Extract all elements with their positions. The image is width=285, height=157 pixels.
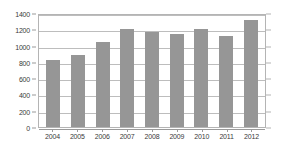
x-tick-mark-2008 [152,129,153,132]
bar-2006 [96,42,110,127]
y-tick-label-1000: 1000 [15,43,30,50]
x-tick-label-2010: 2010 [194,133,209,141]
x-axis: 200420052006200720082009201020112012 [38,129,266,151]
x-tick-2012: 2012 [244,129,258,151]
y-tick-label-800: 800 [19,59,30,66]
y-tick-mark-right-1000 [266,46,271,47]
y-axis: 0200400600800100012001400 [0,14,36,128]
x-tick-2004: 2004 [45,129,59,151]
y-tick-mark-0 [32,128,36,129]
y-tick-mark-800 [32,62,36,63]
y-tick-mark-200 [32,111,36,112]
x-tick-2011: 2011 [220,129,234,151]
x-tick-mark-2012 [251,129,252,132]
x-tick-mark-2005 [77,129,78,132]
x-tick-label-2006: 2006 [95,133,110,141]
x-tick-2007: 2007 [120,129,134,151]
bar-2011 [219,36,233,127]
x-tick-2005: 2005 [70,129,84,151]
bar-2004 [46,60,60,127]
x-tick-label-2009: 2009 [169,133,184,141]
bar-2008 [145,32,159,127]
y-tick-mark-1400 [32,14,36,15]
x-tick-2010: 2010 [195,129,209,151]
bar-chart: 0200400600800100012001400 20042005200620… [0,0,285,157]
x-tick-2006: 2006 [95,129,109,151]
bar-2010 [194,29,208,127]
bar-series [39,15,265,127]
x-tick-label-2008: 2008 [145,133,160,141]
y-axis-right-ticks [266,14,272,128]
bar-2007 [120,29,134,127]
y-tick-mark-right-200 [266,111,271,112]
y-tick-mark-600 [32,79,36,80]
y-tick-label-600: 600 [19,76,30,83]
bar-2012 [244,20,258,127]
x-tick-mark-2007 [127,129,128,132]
plot-area [38,14,266,128]
x-tick-label-2011: 2011 [219,133,233,141]
x-tick-label-2004: 2004 [45,133,60,141]
y-tick-mark-right-400 [266,95,271,96]
y-tick-mark-right-600 [266,79,271,80]
y-tick-label-0: 0 [26,125,30,132]
x-tick-mark-2011 [227,129,228,132]
x-tick-2009: 2009 [170,129,184,151]
bar-2005 [71,55,85,127]
bar-2009 [170,34,184,127]
y-tick-label-400: 400 [19,92,30,99]
x-tick-2008: 2008 [145,129,159,151]
x-tick-mark-2004 [52,129,53,132]
x-tick-mark-2006 [102,129,103,132]
y-tick-mark-1200 [32,30,36,31]
x-tick-mark-2010 [202,129,203,132]
x-tick-label-2007: 2007 [120,133,135,141]
y-tick-mark-right-1400 [266,14,271,15]
y-tick-mark-right-1200 [266,30,271,31]
y-tick-label-200: 200 [19,108,30,115]
y-tick-label-1200: 1200 [15,27,30,34]
y-tick-label-1400: 1400 [15,11,30,18]
y-tick-mark-1000 [32,46,36,47]
x-tick-label-2005: 2005 [70,133,85,141]
x-tick-mark-2009 [177,129,178,132]
y-tick-mark-right-800 [266,62,271,63]
y-tick-mark-400 [32,95,36,96]
x-tick-label-2012: 2012 [244,133,259,141]
y-tick-mark-right-0 [266,128,271,129]
